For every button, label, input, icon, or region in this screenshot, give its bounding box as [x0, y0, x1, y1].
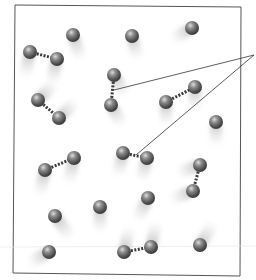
- molecule-atom: [104, 98, 118, 112]
- molecule-atom: [140, 151, 154, 165]
- molecule-atom: [116, 146, 130, 160]
- molecule-atom: [186, 184, 200, 198]
- atom: [193, 238, 207, 252]
- molecule-atom: [188, 80, 202, 94]
- molecule-diagram: [0, 0, 256, 280]
- atom: [185, 21, 199, 35]
- atom: [125, 29, 139, 43]
- molecule-atom: [67, 151, 81, 165]
- molecule-atom: [159, 95, 173, 109]
- atom: [141, 191, 155, 205]
- atom: [66, 28, 80, 42]
- molecule-atom: [193, 158, 207, 172]
- atom: [42, 245, 56, 259]
- atom: [209, 115, 223, 129]
- molecule-atom: [144, 240, 158, 254]
- molecule-atom: [52, 111, 66, 125]
- molecule-atom: [31, 93, 45, 107]
- molecule-atom: [117, 245, 131, 259]
- molecule-atom: [50, 52, 64, 66]
- atom: [93, 200, 107, 214]
- molecule-atom: [107, 68, 121, 82]
- molecule-atom: [38, 163, 52, 177]
- atom: [48, 209, 62, 223]
- molecule-atom: [23, 45, 37, 59]
